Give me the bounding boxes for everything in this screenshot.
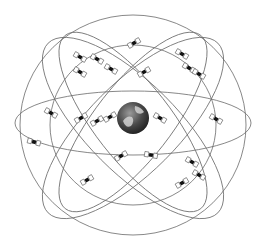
satellite-icon — [144, 151, 158, 158]
satellite-icon — [137, 67, 151, 78]
satellite-icon — [73, 67, 87, 78]
satellite-icon — [73, 52, 87, 63]
constellation-canvas — [0, 0, 265, 250]
earth-globe — [116, 101, 151, 136]
satellite-icon — [192, 69, 206, 80]
satellite-icon — [175, 178, 189, 189]
satellite-icon — [104, 64, 118, 75]
satellite-icon — [44, 108, 58, 119]
earth-icon — [117, 102, 149, 134]
satellite-icon — [127, 38, 141, 49]
satellite-icon — [185, 157, 199, 168]
gps-constellation-diagram: GPS satellite constellation — [0, 0, 265, 250]
satellite-icon — [114, 151, 128, 162]
satellite-icon — [27, 138, 41, 146]
satellite-icon — [103, 112, 117, 123]
satellite-icon — [90, 54, 104, 65]
satellite-icon — [153, 113, 167, 124]
satellite-icon — [90, 116, 104, 127]
satellite-icon — [175, 49, 189, 60]
satellite-icon — [80, 175, 94, 186]
